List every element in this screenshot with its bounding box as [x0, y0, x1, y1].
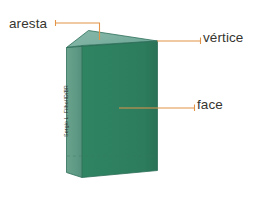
image-credit: Sergio L. Filho/ID/BR [64, 85, 69, 137]
callout-label-vertice: vértice [203, 31, 243, 45]
connector-aresta [56, 20, 100, 40]
callout-label-face: face [197, 98, 223, 112]
connector-vertice [157, 38, 201, 45]
figure-canvas: aresta vértice face Sergio L. Filho/ID/B… [0, 0, 257, 197]
connector-face [119, 105, 195, 112]
callout-label-aresta: aresta [9, 17, 47, 31]
